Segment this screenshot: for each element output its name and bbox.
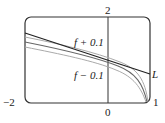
x-zero-tick: 0 bbox=[105, 107, 111, 118]
x-left-tick: −2 bbox=[3, 97, 15, 108]
x-right-tick: 1 bbox=[153, 97, 159, 108]
label-L: L bbox=[152, 69, 158, 80]
label-f-minus: f − 0.1 bbox=[74, 70, 104, 81]
plot-frame bbox=[25, 17, 150, 103]
y-top-tick: 2 bbox=[105, 5, 111, 16]
plot-canvas bbox=[0, 0, 165, 123]
label-f-plus: f + 0.1 bbox=[74, 37, 104, 48]
